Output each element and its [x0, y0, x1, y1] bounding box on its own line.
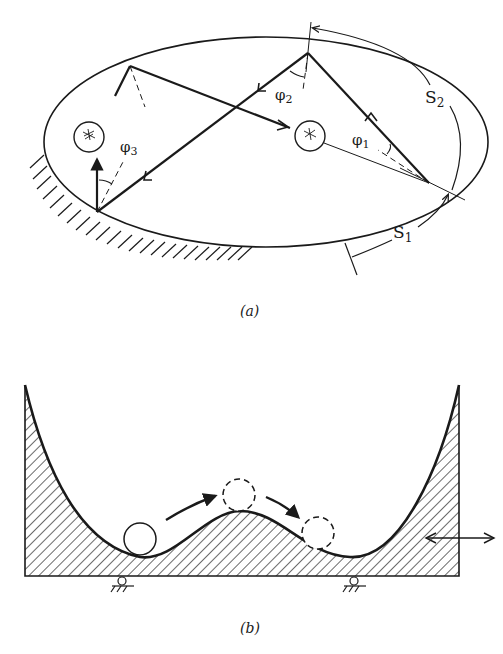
panel-a-elliptical-billiard: S2 S1 φ1 φ2 φ3 (a): [30, 22, 488, 319]
radial-line-right: [324, 143, 429, 183]
trajectory-arrowheads: [144, 83, 377, 180]
angle-arcs: [99, 71, 391, 184]
ball-solid: [124, 523, 156, 555]
caption-a: (a): [240, 303, 259, 319]
label-phi3: φ3: [120, 138, 138, 158]
tangent-line-right: [400, 168, 465, 200]
panel-b-double-well: (b): [25, 380, 494, 636]
ball-dashed-top: [223, 479, 255, 511]
label-s1: S1: [393, 222, 412, 245]
label-phi2: φ2: [275, 86, 293, 106]
scatterer-right: [295, 121, 325, 151]
label-phi1: φ1: [352, 131, 370, 151]
well-body-hatch: [25, 380, 459, 576]
roller-support-right: [343, 577, 366, 592]
billiard-boundary-ellipse: [44, 37, 488, 247]
normal-lines-dashed: [97, 53, 429, 212]
particle-trajectory: [97, 53, 429, 212]
scatterer-left: [74, 122, 104, 152]
roller-support-left: [111, 577, 134, 592]
motion-arrow-down: [266, 497, 298, 517]
ball-dashed-right: [302, 517, 334, 549]
caption-b: (b): [240, 620, 260, 636]
figure-canvas: S2 S1 φ1 φ2 φ3 (a): [0, 0, 503, 654]
label-s2: S2: [425, 87, 444, 110]
motion-arrow-up: [166, 496, 215, 520]
